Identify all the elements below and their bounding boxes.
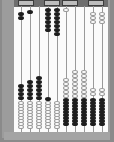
black-bead[interactable] [45, 28, 51, 32]
white-bead[interactable] [18, 125, 24, 129]
black-bead[interactable] [63, 122, 69, 126]
white-bead[interactable] [45, 125, 51, 129]
black-bead[interactable] [99, 122, 105, 126]
white-bead[interactable] [90, 20, 96, 24]
black-bead[interactable] [54, 32, 60, 36]
black-bead[interactable] [72, 122, 78, 126]
black-bead[interactable] [90, 122, 96, 126]
white-bead[interactable] [27, 125, 33, 129]
black-bead[interactable] [27, 96, 33, 100]
black-bead[interactable] [36, 96, 42, 100]
white-bead[interactable] [63, 8, 69, 12]
white-bead[interactable] [99, 92, 105, 96]
white-bead[interactable] [36, 125, 42, 129]
black-bead[interactable] [27, 10, 33, 14]
black-bead[interactable] [18, 96, 24, 100]
white-bead[interactable] [54, 125, 60, 129]
white-bead[interactable] [90, 92, 96, 96]
black-bead[interactable] [18, 16, 24, 20]
abacus-bottom-edge [4, 132, 110, 140]
black-bead[interactable] [81, 122, 87, 126]
white-bead[interactable] [99, 20, 105, 24]
